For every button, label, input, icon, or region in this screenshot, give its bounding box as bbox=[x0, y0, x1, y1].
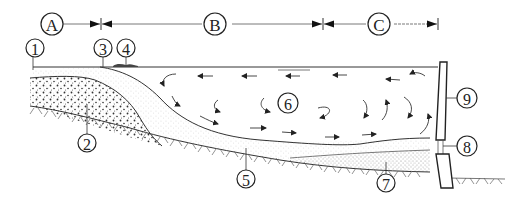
callout-3-text: 3 bbox=[99, 41, 107, 58]
zone-label-a: A bbox=[41, 13, 63, 35]
callout-1-text: 1 bbox=[31, 41, 39, 58]
callout-4-text: 4 bbox=[122, 41, 130, 58]
callout-9: 9 bbox=[457, 88, 477, 108]
zone-a-text: A bbox=[46, 16, 59, 35]
reservoir-diagram: A B C bbox=[0, 0, 518, 204]
callout-3: 3 bbox=[94, 39, 112, 58]
dam-lower-block bbox=[436, 154, 453, 188]
callout-4: 4 bbox=[117, 39, 135, 58]
callout-8: 8 bbox=[457, 136, 477, 156]
callout-7-text: 7 bbox=[382, 176, 390, 193]
callout-6: 6 bbox=[278, 93, 298, 113]
callout-7: 7 bbox=[377, 174, 395, 193]
callout-2-text: 2 bbox=[83, 136, 91, 153]
callout-5: 5 bbox=[237, 170, 255, 189]
callout-6-text: 6 bbox=[284, 96, 292, 113]
zone-label-b: B bbox=[204, 13, 226, 35]
zone-c-text: C bbox=[373, 16, 384, 35]
floating-debris bbox=[113, 64, 138, 67]
callout-8-text: 8 bbox=[463, 139, 471, 156]
callout-5-text: 5 bbox=[242, 172, 250, 189]
callout-1: 1 bbox=[26, 39, 44, 58]
zone-label-c: C bbox=[368, 13, 390, 35]
dam-upper-gate bbox=[436, 62, 447, 140]
callout-2: 2 bbox=[78, 134, 96, 153]
callout-9-text: 9 bbox=[463, 91, 471, 108]
zone-b-text: B bbox=[209, 16, 220, 35]
